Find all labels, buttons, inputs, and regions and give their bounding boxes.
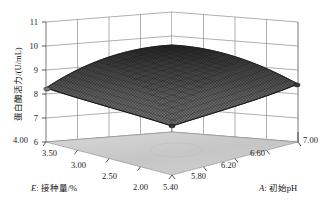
x-axis-title-text: 初始pH [269,183,297,193]
z-tick-label: 7 [22,113,38,123]
marker-left-corner [44,87,50,91]
y-axis-title-text: 接种量/% [41,183,77,193]
y-tick-label: 3.50 [42,148,57,158]
marker-right-corner [294,83,300,87]
z-axis-title: 蛋白酶活力/(U/mL) [11,29,23,139]
x-tick-label: 6.20 [221,160,236,170]
x-tick-label: 5.40 [163,182,178,192]
z-axis-ticks [42,22,46,142]
y-axis-title-sep: : [36,183,38,193]
y-tick-label: 3.00 [71,160,86,170]
plot-canvas [0,0,332,208]
x-axis-title: A: 初始pH [259,181,297,193]
x-tick-label: 5.80 [191,171,206,181]
y-tick-label: 2.00 [133,182,148,192]
y-tick-label: 2.50 [102,171,117,181]
y-tick-label: 4.00 [13,135,28,145]
y-axis-title: E: 接种量/% [31,181,77,193]
z-tick-label: 9 [22,65,38,75]
z-tick-label: 10 [22,41,38,51]
x-tick-label: 6.60 [250,148,265,158]
z-tick-label: 11 [22,17,38,27]
surface-plot-figure: 11 10 9 8 7 6 蛋白酶活力/(U/mL) 4.00 3.50 3.0… [0,0,332,208]
x-axis-title-sep: : [264,183,266,193]
x-tick-label: 7.00 [303,135,318,145]
z-tick-label: 8 [22,89,38,99]
